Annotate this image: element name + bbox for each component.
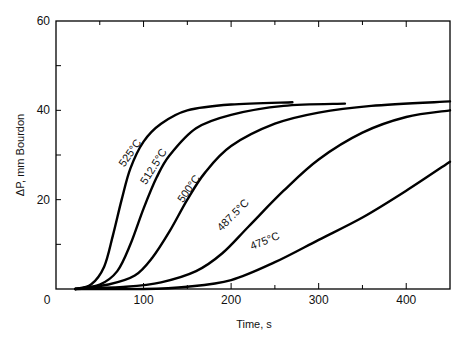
x-tick-label: 400 [396,293,416,307]
x-tick-label: 0 [44,293,51,307]
curve-label: 475°C [248,229,281,252]
curve-labels: 525°C512.5°C500°C487.5°C475°C [116,137,281,252]
y-tick-label: 20 [37,193,51,207]
x-axis-title: Time, s [236,318,272,330]
curve-label: 512.5°C [138,146,169,186]
curve-475c [75,162,450,289]
x-tick-label: 300 [309,293,329,307]
y-tick-label: 60 [37,14,51,28]
y-tick-label: 40 [37,103,51,117]
x-axis-tick-labels: 0100200300400 [44,293,417,307]
curve-500c [75,101,450,289]
curve-512-5c [75,104,345,289]
data-curves [75,101,450,289]
x-tick-label: 200 [221,293,241,307]
chart-canvas: 0100200300400 204060 525°C512.5°C500°C48… [0,0,467,338]
curve-label: 487.5°C [214,196,251,233]
y-axis-tick-labels: 204060 [37,14,51,207]
y-axis-title: ΔP, mm Bourdon [14,114,26,196]
x-tick-label: 100 [134,293,154,307]
curve-label: 525°C [116,137,143,169]
